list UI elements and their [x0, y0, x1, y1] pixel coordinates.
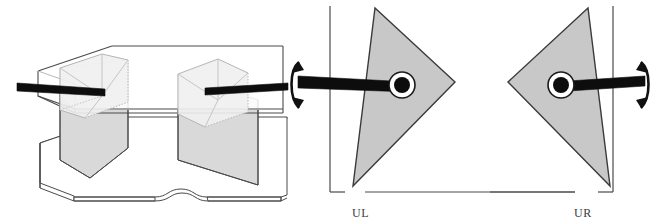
technical-diagram-svg: [0, 0, 657, 224]
panel-label-ul: UL: [352, 206, 369, 221]
ul-reference-line: [330, 6, 345, 192]
section-view-ur: [490, 6, 649, 192]
figure-root: UL UR: [0, 0, 657, 224]
isometric-assembly-view: [17, 46, 295, 203]
panel-label-ur: UR: [574, 206, 592, 221]
ul-pivot-hub: [389, 72, 415, 98]
ur-pivot-hub: [548, 72, 574, 98]
